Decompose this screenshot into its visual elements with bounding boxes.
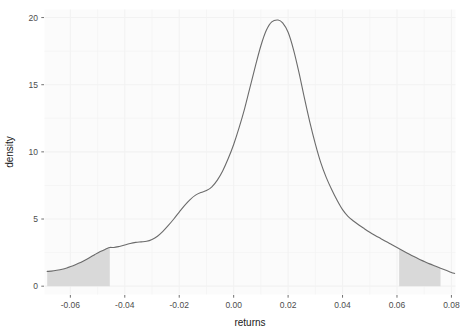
x-axis-title: returns [234,317,265,328]
y-axis-tick-label: 0 [33,281,38,291]
x-axis-tick-label: 0.04 [334,300,351,310]
y-axis-tick-label: 5 [33,214,38,224]
x-axis-tick-label: -0.06 [61,300,81,310]
y-axis-tick-label: 10 [29,147,39,157]
density-plot-figure: -0.06-0.04-0.020.000.020.040.060.0805101… [0,0,465,331]
x-axis-tick-label: 0.00 [225,300,242,310]
y-axis-tick-label: 15 [29,80,39,90]
x-axis-tick-label: 0.06 [389,300,406,310]
x-axis-tick-label: 0.02 [280,300,297,310]
chart-canvas: -0.06-0.04-0.020.000.020.040.060.0805101… [0,0,465,331]
x-axis-tick-label: 0.08 [443,300,460,310]
y-axis-tick-label: 20 [29,13,39,23]
y-axis-title: density [4,136,15,168]
x-axis-tick-label: -0.02 [170,300,190,310]
x-axis-tick-label: -0.04 [115,300,135,310]
